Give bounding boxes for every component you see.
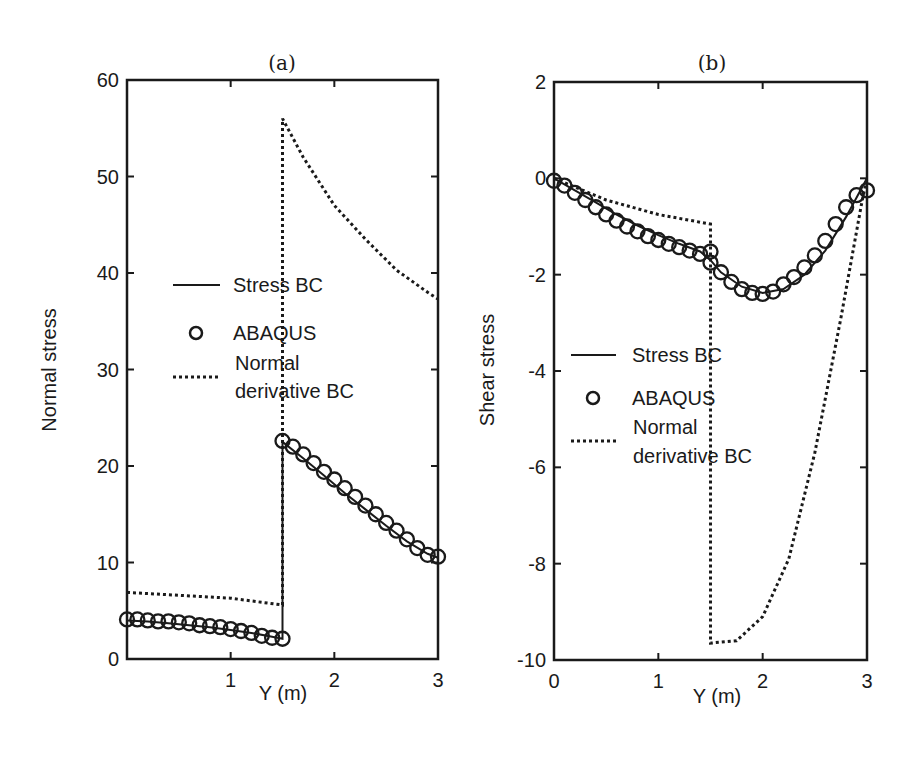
y-tick-label: -6 — [528, 456, 546, 478]
x-tick-label: 3 — [432, 669, 443, 691]
normal-derivative-bc-line — [554, 178, 867, 643]
panel-a-title: (a) — [268, 51, 296, 75]
y-tick-label: 60 — [97, 69, 119, 91]
panel-b-shear-stress: (b) -10-8-6-4-2020123 Y (m) Shear stress… — [476, 51, 874, 707]
legend-normal-line1: Normal — [235, 352, 299, 374]
y-tick-label: -4 — [528, 360, 546, 382]
y-tick-label: -10 — [517, 649, 546, 671]
panel-a-normal-stress: (a) 0102030405060123 Y (m) Normal stress… — [38, 51, 445, 704]
x-tick-label: 0 — [548, 670, 559, 692]
legend-normal-line1: Normal — [633, 416, 697, 438]
panel-b-tick-labels: -10-8-6-4-2020123 — [517, 71, 872, 692]
legend-circle-marker-icon — [190, 327, 202, 339]
x-tick-label: 2 — [757, 670, 768, 692]
abaqus-marker — [808, 248, 822, 262]
panel-b-title: (b) — [698, 51, 726, 75]
x-tick-label: 3 — [861, 670, 872, 692]
panel-b-legend: Stress BC ABAQUS Normal derivative BC — [571, 344, 752, 467]
panel-b-x-axis-label: Y (m) — [693, 685, 742, 707]
y-tick-label: 30 — [97, 359, 119, 381]
legend-normal-line2: derivative BC — [235, 380, 354, 402]
y-tick-label: 0 — [535, 167, 546, 189]
legend-stress-bc: Stress BC — [632, 344, 722, 366]
y-tick-label: -2 — [528, 264, 546, 286]
y-tick-label: 0 — [108, 648, 119, 670]
abaqus-marker — [797, 260, 811, 274]
legend-normal-line2: derivative BC — [633, 445, 752, 467]
y-tick-label: 50 — [97, 166, 119, 188]
panel-b-y-axis-label: Shear stress — [476, 314, 498, 426]
legend-stress-bc: Stress BC — [233, 274, 323, 296]
y-tick-label: 2 — [535, 71, 546, 93]
figure: (a) 0102030405060123 Y (m) Normal stress… — [0, 0, 920, 757]
legend-abaqus: ABAQUS — [233, 322, 316, 344]
y-tick-label: -8 — [528, 553, 546, 575]
x-tick-label: 1 — [653, 670, 664, 692]
y-tick-label: 20 — [97, 455, 119, 477]
panel-a-x-axis-label: Y (m) — [259, 682, 308, 704]
x-tick-label: 2 — [329, 669, 340, 691]
panel-a-legend: Stress BC ABAQUS Normal derivative BC — [173, 274, 354, 402]
panel-a-y-axis-label: Normal stress — [38, 308, 60, 431]
legend-circle-marker-icon — [587, 392, 599, 404]
x-tick-label: 1 — [225, 669, 236, 691]
y-tick-label: 10 — [97, 552, 119, 574]
legend-abaqus: ABAQUS — [632, 387, 715, 409]
y-tick-label: 40 — [97, 262, 119, 284]
